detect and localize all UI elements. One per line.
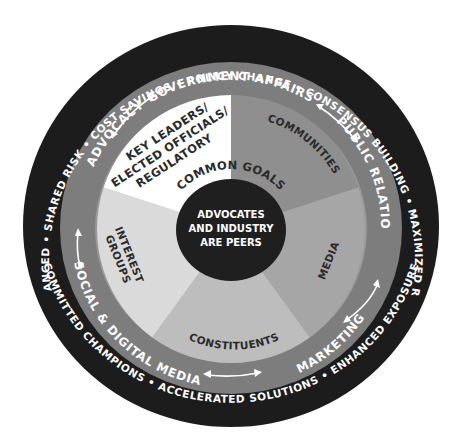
core-line-3: ARE PEERS bbox=[200, 237, 262, 248]
core-line-1: ADVOCATES bbox=[197, 209, 264, 220]
peer-advocacy-diagram: GOALS ADVANCED • SHARED RISK • COST SAVI… bbox=[0, 0, 464, 448]
core-line-2: AND INDUSTRY bbox=[189, 223, 275, 234]
